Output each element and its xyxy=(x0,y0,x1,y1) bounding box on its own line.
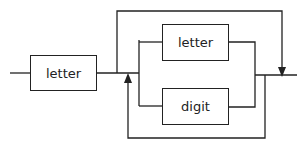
arrow-up-icon xyxy=(124,73,132,83)
node-label: letter xyxy=(178,35,213,50)
node-letter-1: letter xyxy=(30,55,97,91)
node-label: letter xyxy=(46,66,81,81)
node-digit: digit xyxy=(162,88,229,125)
node-letter-2: letter xyxy=(162,24,229,61)
node-label: digit xyxy=(181,99,210,114)
